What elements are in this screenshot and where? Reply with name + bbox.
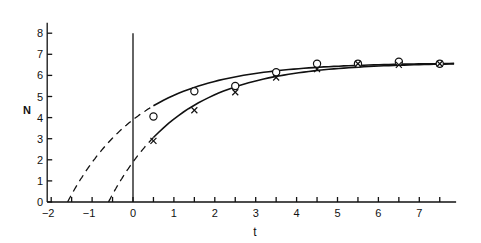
lower-fit-dashed [109, 138, 154, 203]
y-tick-label: 1 [37, 175, 43, 187]
tick-marks [47, 33, 440, 202]
x-tick-label: 0 [130, 207, 136, 219]
circle-marker [232, 82, 239, 89]
y-tick-label: 5 [37, 91, 43, 103]
y-tick-label: 8 [37, 27, 43, 39]
y-tick-label: 7 [37, 48, 43, 60]
x-tick-label: 5 [334, 207, 340, 219]
x-tick-label: 4 [294, 207, 300, 219]
data-markers [150, 58, 444, 144]
tick-labels: −2−101234567012345678 [37, 27, 422, 219]
x-tick-label: −1 [83, 207, 96, 219]
cross-marker [232, 89, 238, 95]
x-tick-label: 3 [253, 207, 259, 219]
cross-marker [150, 138, 156, 144]
circle-marker [150, 113, 157, 120]
y-tick-label: 3 [37, 133, 43, 145]
y-tick-label: 6 [37, 69, 43, 81]
x-tick-label: 2 [212, 207, 218, 219]
upper-fit-dashed [68, 106, 154, 202]
x-tick-label: −2 [42, 207, 55, 219]
y-tick-label: 2 [37, 154, 43, 166]
lower-fit-solid [153, 64, 454, 138]
fit-curves [68, 63, 455, 202]
x-axis-label: t [253, 225, 257, 239]
upper-fit-solid [153, 63, 454, 105]
circle-marker [191, 88, 198, 95]
y-axis-label: N [23, 104, 31, 116]
x-tick-label: 1 [171, 207, 177, 219]
axes [47, 23, 456, 202]
x-tick-label: 7 [416, 207, 422, 219]
y-tick-label: 0 [37, 196, 43, 208]
cross-marker [191, 107, 197, 113]
plot: −2−101234567012345678 t N [0, 0, 481, 243]
y-tick-label: 4 [37, 112, 43, 124]
x-tick-label: 6 [375, 207, 381, 219]
